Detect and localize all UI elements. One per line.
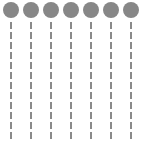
node-circle <box>103 2 119 18</box>
column-group <box>121 0 141 148</box>
node-circle <box>3 2 19 18</box>
node-circle <box>83 2 99 18</box>
column-group <box>21 0 41 148</box>
node-circle <box>43 2 59 18</box>
column-group <box>101 0 121 148</box>
node-circle <box>23 2 39 18</box>
column-group <box>81 0 101 148</box>
dashed-vertical-line <box>50 22 52 139</box>
column-group <box>1 0 21 148</box>
dashed-vertical-line <box>10 22 12 139</box>
dashed-vertical-line <box>30 22 32 139</box>
column-group <box>41 0 61 148</box>
dashed-vertical-line <box>110 22 112 139</box>
figure-canvas <box>0 0 144 148</box>
dashed-vertical-line <box>90 22 92 139</box>
node-circle <box>123 2 139 18</box>
node-circle <box>63 2 79 18</box>
dashed-vertical-line <box>70 22 72 139</box>
dashed-vertical-line <box>130 22 132 139</box>
column-group <box>61 0 81 148</box>
